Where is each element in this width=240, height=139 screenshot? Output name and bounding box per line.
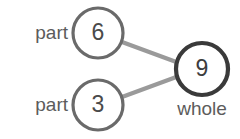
number-bond-canvas: 6 part 3 part 9 whole <box>0 0 240 139</box>
part-top-value: 6 <box>92 19 105 45</box>
connector-part-bottom-to-whole <box>122 76 179 97</box>
whole-value: 9 <box>196 55 209 81</box>
part-bottom-label: part <box>35 94 68 115</box>
part-top-label: part <box>35 22 68 43</box>
connector-part-top-to-whole <box>122 42 179 63</box>
part-bottom-value: 3 <box>92 91 105 117</box>
whole-label: whole <box>176 98 227 119</box>
number-bond-diagram: 6 part 3 part 9 whole <box>0 0 240 139</box>
